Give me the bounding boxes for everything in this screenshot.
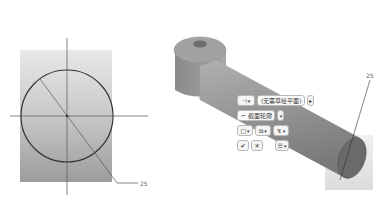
edit-icon: ↯ [277,127,282,134]
check-icon: ✔ [240,142,245,149]
sketch-canvas [0,0,160,200]
close-icon: ✕ [254,142,259,149]
section-icon: ⌐ [241,112,246,119]
arrow-right-icon: ▸ [309,97,312,104]
callout-label-left: 25 [140,180,148,187]
sketch-plane-button[interactable]: ⊣▾ [237,95,255,106]
dashboard-row-2: ⌐ 截面轮廓 ▾ [237,110,284,121]
center-point [66,115,68,117]
ok-button[interactable]: ✔ [237,140,249,151]
model-view: 25 ⊣▾ (无需草绘平面) ▸ ⌐ 截面轮廓 ▾ □▾ ⧉▾ ↯▾ ✔ [160,0,380,200]
section-profile-label: 截面轮廓 [248,111,272,120]
cancel-button[interactable]: ✕ [251,140,263,151]
dashboard-row-1: ⊣▾ (无需草绘平面) ▸ [237,95,314,106]
menu-icon: ☰ [278,142,283,149]
dashboard-row-3: □▾ ⧉▾ ↯▾ [237,125,289,136]
next-button[interactable]: ▸ [307,95,314,106]
options-button[interactable]: ☰▾ [275,140,289,151]
section-profile-button[interactable]: ⌐ 截面轮廓 [237,110,275,121]
section-dropdown[interactable]: ▾ [277,110,284,121]
option-button-3[interactable]: ↯▾ [273,125,289,136]
callout-label-right: 25 [366,72,374,79]
sketch-plane-icon: ⊣ [242,97,247,104]
sketch-view: 25 [0,0,160,200]
dashboard-row-4: ✔ ✕ ☰▾ [237,140,289,151]
square-icon: □ [240,127,246,134]
boss-hole [193,41,207,48]
copy-icon: ⧉ [259,127,263,135]
option-button-1[interactable]: □▾ [237,125,253,136]
sketch-plane-field[interactable]: (无需草绘平面) [257,95,305,106]
option-button-2[interactable]: ⧉▾ [255,125,271,136]
